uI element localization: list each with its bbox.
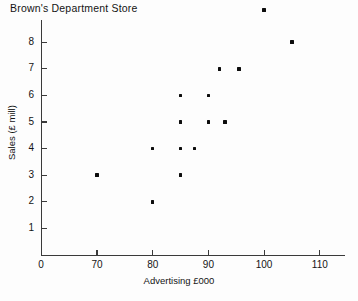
y-tick-label: 8	[8, 36, 34, 47]
x-tick-label: 80	[133, 259, 173, 270]
x-axis-label: Advertising £000	[0, 275, 358, 286]
data-point	[237, 67, 241, 71]
y-tick-label: 6	[8, 89, 34, 100]
x-tick-label: 70	[77, 259, 117, 270]
plot-area	[41, 20, 345, 256]
data-point	[179, 94, 183, 98]
data-point	[218, 67, 222, 71]
y-tick-label: 7	[8, 62, 34, 73]
data-point	[207, 94, 211, 98]
y-tick-label: 3	[8, 169, 34, 180]
x-tick-label: 100	[244, 259, 284, 270]
data-point	[179, 173, 183, 177]
y-axis-label: Sales (£ mill)	[6, 105, 17, 160]
data-point	[262, 8, 266, 12]
x-tick-label: 90	[188, 259, 228, 270]
data-point	[207, 120, 211, 124]
y-tick-label: 2	[8, 195, 34, 206]
scatter-chart: Brown's Department Store 12345678 070809…	[0, 0, 358, 301]
data-point	[193, 147, 197, 151]
chart-title: Brown's Department Store	[10, 2, 138, 14]
data-point	[95, 173, 99, 177]
data-point	[290, 40, 294, 44]
y-tick-label: 1	[8, 222, 34, 233]
x-tick-label: 110	[300, 259, 340, 270]
x-tick-label: 0	[21, 259, 61, 270]
data-point	[223, 120, 227, 124]
data-point	[179, 120, 183, 124]
data-point	[179, 147, 183, 151]
data-point	[151, 200, 155, 204]
data-point	[151, 147, 155, 151]
